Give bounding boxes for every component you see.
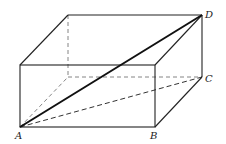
edge-bottom-right — [155, 77, 202, 127]
vertex-label-B: B — [149, 130, 157, 141]
front-face — [20, 65, 155, 127]
edge-top-left — [20, 15, 68, 65]
vertex-label-A: A — [14, 130, 22, 141]
diagonal-AC — [20, 77, 202, 127]
prism-diagram: A B C D — [0, 0, 226, 144]
diagonal-AD — [20, 15, 202, 127]
vertex-label-D: D — [204, 9, 213, 20]
vertex-label-C: C — [205, 73, 213, 84]
